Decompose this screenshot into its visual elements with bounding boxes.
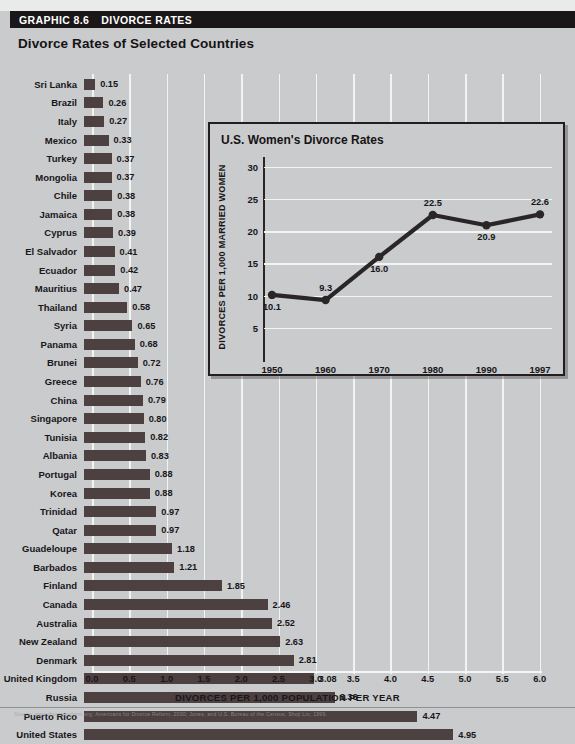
bar-row-value-label: 0.42 [115,265,138,275]
bar-row-country-label: Denmark [0,655,84,666]
bar-row-country-label: Jamaica [0,209,84,220]
inset-data-label: 22.6 [531,197,549,207]
bar-row-bar [84,227,113,238]
inset-x-tick-1950: 1950 [261,364,282,375]
bar-row-value-label: 4.95 [453,730,476,740]
inset-data-point [321,296,329,304]
bar-row-value-label: 0.97 [156,525,179,535]
inset-plot-area [264,157,552,360]
inset-line-svg [264,157,552,360]
x-tick-5.0: 5.0 [459,674,472,684]
bar-row-country-label: China [0,395,84,406]
bar-row-value-label: 0.47 [119,284,142,294]
bar-row-country-label: Finland [0,580,84,591]
inset-data-point [375,253,383,261]
bar-row-bar [84,302,127,313]
graphic-title-label: DIVORCE RATES [89,14,192,26]
x-tick-6.0: 6.0 [533,674,546,684]
inset-data-line [272,214,540,300]
inset-data-point [536,210,544,218]
bar-row: Finland1.85 [0,577,575,596]
bar-row-value-label: 2.46 [268,600,291,610]
bar-row-country-label: Australia [0,618,84,629]
bar-row-country-label: Korea [0,488,84,499]
bar-row-value-label: 2.52 [272,618,295,628]
bar-row: Denmark2.81 [0,651,575,670]
bar-row-country-label: Panama [0,339,84,350]
bar-row: Albania0.83 [0,447,575,466]
inset-y-axis-label: DIVORCES PER 1,000 MARRIED WOMEN [214,154,230,360]
inset-y-axis-label-text: DIVORCES PER 1,000 MARRIED WOMEN [217,164,227,349]
x-tick-5.5: 5.5 [496,674,509,684]
bar-row-value-label: 0.65 [132,321,155,331]
bar-chart-x-axis-ticks: 0.00.51.01.52.02.53.03.54.04.55.05.56.0 [0,674,575,690]
bar-row-value-label: 1.18 [172,544,195,554]
bar-row-bar [84,357,138,368]
bar-row-country-label: Mongolia [0,172,84,183]
bar-row-bar [84,655,294,666]
x-tick-1.5: 1.5 [197,674,210,684]
bar-row-bar [84,636,280,647]
bar-row: New Zealand2.63 [0,632,575,651]
bar-row-value-label: 0.38 [112,191,135,201]
bar-row-bar [84,543,172,554]
inset-data-point [482,221,490,229]
bar-row-country-label: Trinidad [0,506,84,517]
bar-row-bar [84,525,156,536]
inset-line-chart-panel: U.S. Women's Divorce Rates DIVORCES PER … [208,122,565,376]
bar-row: Tunisia0.82 [0,428,575,447]
bar-row-value-label: 0.41 [115,247,138,257]
bar-row-bar [84,599,268,610]
inset-data-label: 16.0 [370,264,388,274]
bar-row-value-label: 0.83 [146,451,169,461]
x-tick-0.5: 0.5 [123,674,136,684]
inset-data-label: 9.3 [319,283,332,293]
inset-data-label: 20.9 [477,232,495,242]
bar-row-country-label: Greece [0,376,84,387]
inset-x-tick-1960: 1960 [315,364,336,375]
x-tick-4.5: 4.5 [421,674,434,684]
bar-row-country-label: Tunisia [0,432,84,443]
bar-row-value-label: 0.27 [104,116,127,126]
bar-row-country-label: Turkey [0,153,84,164]
bar-row-bar [84,450,146,461]
inset-y-tick-5: 5 [232,322,258,333]
bar-row: Guadeloupe1.18 [0,540,575,559]
inset-y-tick-10: 10 [232,290,258,301]
inset-chart-title: U.S. Women's Divorce Rates [221,133,384,147]
bar-row-bar [84,580,222,591]
bar-row-value-label: 0.58 [127,302,150,312]
bar-row-value-label: 0.37 [112,172,135,182]
bar-row-value-label: 0.15 [95,79,118,89]
inset-y-tick-15: 15 [232,258,258,269]
inset-data-point [429,211,437,219]
bar-row-country-label: Mexico [0,135,84,146]
bar-row-value-label: 0.88 [150,488,173,498]
bar-row-bar [84,395,143,406]
bar-row-bar [84,97,103,108]
bar-row-bar [84,729,453,740]
inset-y-tick-25: 25 [232,193,258,204]
bar-row-country-label: Cyprus [0,227,84,238]
bar-row-country-label: Singapore [0,413,84,424]
bar-row-bar [84,116,104,127]
bar-row: Singapore0.80 [0,409,575,428]
inset-data-label: 10.1 [263,302,281,312]
bar-row-country-label: Guadeloupe [0,543,84,554]
inset-y-tick-30: 30 [232,161,258,172]
source-note: Source: www.divorcereform.org; Americans… [14,711,559,717]
bar-row-value-label: 0.72 [138,358,161,368]
bar-row: Brazil0.26 [0,94,575,113]
bar-row-country-label: Qatar [0,525,84,536]
bar-row-value-label: 0.38 [112,209,135,219]
bar-row-country-label: Brunei [0,357,84,368]
bar-row-bar [84,265,115,276]
bar-row-bar [84,79,95,90]
inset-y-tick-20: 20 [232,226,258,237]
bar-row-value-label: 0.88 [150,469,173,479]
bar-row: Qatar0.97 [0,521,575,540]
bar-row-country-label: United States [0,729,84,740]
bar-row-bar [84,190,112,201]
bar-chart-x-axis-label: DIVORCES PER 1,000 POPULATION PER YEAR [0,692,575,703]
bar-row-bar [84,339,135,350]
